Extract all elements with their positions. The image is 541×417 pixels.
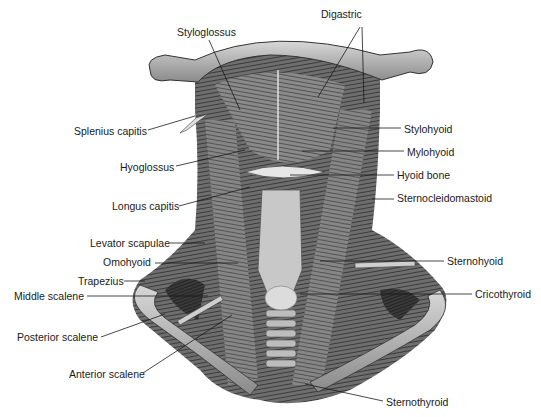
label-hyoid-bone: Hyoid bone (397, 169, 450, 181)
label-trapezius: Trapezius (78, 275, 124, 287)
label-styloglossus: Styloglossus (177, 26, 236, 38)
label-anterior-scalene: Anterior scalene (69, 368, 145, 380)
label-posterior-scalene: Posterior scalene (17, 331, 98, 343)
label-middle-scalene: Middle scalene (14, 290, 84, 302)
label-digastric: Digastric (321, 8, 362, 20)
label-longus-capitis: Longus capitis (112, 200, 179, 212)
label-splenius-capitis: Splenius capitis (74, 125, 147, 137)
label-hyoglossus: Hyoglossus (120, 161, 174, 173)
label-sternothyroid: Sternothyroid (386, 396, 448, 408)
label-levator-scapulae: Levator scapulae (90, 237, 170, 249)
label-omohyoid: Omohyoid (103, 256, 151, 268)
label-sternocleidomastoid: Sternocleidomastoid (397, 192, 492, 204)
anatomy-figure: DigastricStyloglossusSplenius capitisSty… (0, 0, 541, 417)
label-sternohyoid: Sternohyoid (447, 255, 503, 267)
label-cricothyroid: Cricothyroid (475, 288, 531, 300)
neck-illustration (0, 0, 541, 417)
label-stylohyoid: Stylohyoid (404, 123, 452, 135)
larynx (258, 190, 302, 300)
label-mylohyoid: Mylohyoid (407, 146, 454, 158)
